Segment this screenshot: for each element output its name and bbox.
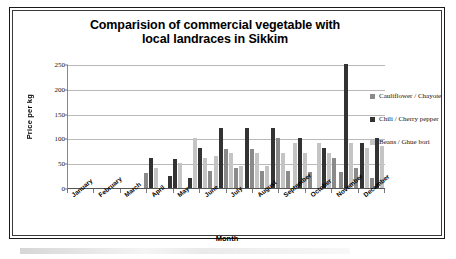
bar (245, 128, 249, 188)
legend-swatch-icon (370, 94, 375, 99)
legend-label: Cauliflower / Chayote (379, 92, 441, 100)
bar-group (68, 65, 92, 188)
bar-group (265, 65, 291, 188)
legend-item[interactable]: Cauliflower / Chayote (370, 92, 456, 100)
chart-title-line-2: local landraces in Sikkim (50, 32, 380, 46)
plot-area: 050100150200250 (67, 65, 385, 189)
legend-swatch-icon (370, 117, 375, 122)
bar (332, 158, 336, 188)
bar-group (163, 65, 187, 188)
bar (250, 149, 254, 188)
y-axis-label: Price per kg (25, 94, 37, 139)
y-tick-label: 100 (55, 135, 66, 143)
legend-label: Beans / Ghue bori (379, 138, 430, 146)
bar (193, 138, 197, 188)
bar (255, 153, 259, 188)
chart-page: Comparision of commercial vegetable with… (0, 0, 456, 259)
bar-group (315, 65, 339, 188)
bar (173, 159, 177, 188)
chart-title-line-1: Comparision of commercial vegetable with (50, 18, 380, 32)
bar-group (187, 65, 213, 188)
bar (149, 158, 153, 188)
cropped-caption-strip (20, 248, 350, 254)
bar-group (239, 65, 265, 188)
bar (365, 148, 369, 188)
legend-label: Chili / Cherry pepper (379, 115, 439, 123)
chart-frame: Comparision of commercial vegetable with… (9, 7, 445, 239)
legend-item[interactable]: Chili / Cherry pepper (370, 115, 456, 123)
bar-group (139, 65, 163, 188)
y-tick-label: 50 (58, 160, 65, 168)
page-title: Comparision of commercial vegetable with… (50, 18, 380, 46)
chart-legend: Cauliflower / ChayoteChili / Cherry pepp… (370, 92, 456, 161)
bar-group (92, 65, 116, 188)
x-axis-label: Month (10, 234, 444, 243)
bar (229, 153, 233, 188)
legend-swatch-icon (370, 140, 375, 145)
bar (224, 149, 228, 188)
bar (360, 143, 364, 188)
bar (144, 173, 148, 188)
bar (203, 158, 207, 188)
bar (168, 176, 172, 188)
bar (178, 163, 182, 188)
legend-item[interactable]: Beans / Ghue bori (370, 138, 456, 146)
bar-group (213, 65, 239, 188)
y-tick-label: 250 (55, 61, 66, 69)
bar-group (291, 65, 315, 188)
bar (344, 64, 348, 188)
x-axis-tick-labels: JanuaryFebruaryMarchAprilMayJuneJulyAugu… (67, 193, 385, 233)
bar (276, 138, 280, 188)
bar (198, 148, 202, 188)
y-tick-label: 200 (55, 86, 66, 94)
bar (317, 143, 321, 188)
bar-groups (68, 65, 385, 188)
bar (239, 166, 243, 188)
y-tick-label: 0 (62, 185, 66, 193)
bar (281, 153, 285, 188)
bar (219, 128, 223, 188)
bar-group (116, 65, 140, 188)
y-tick-label: 150 (55, 111, 66, 119)
